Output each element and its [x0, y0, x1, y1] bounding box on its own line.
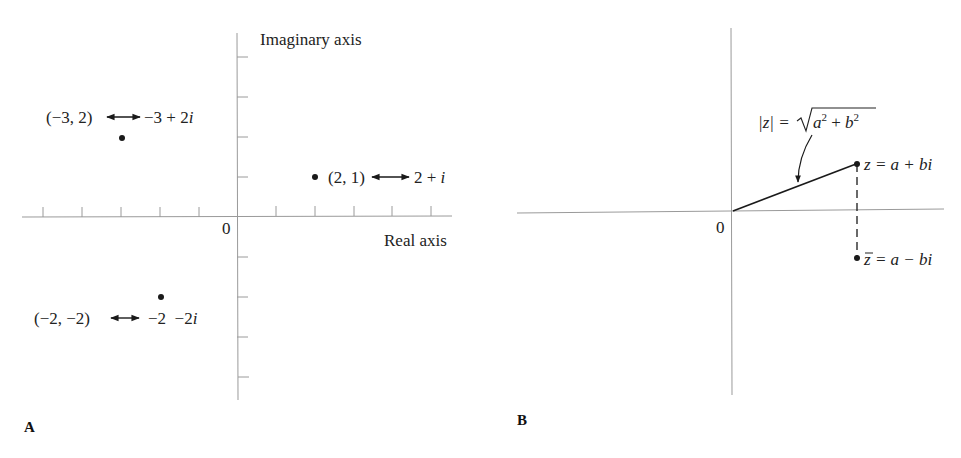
real-axis-b: [517, 209, 944, 213]
imaginary-axis: [237, 33, 238, 400]
point-pair-label: (2, 1): [328, 168, 365, 187]
panel-a: Imaginary axis Real axis 0 (−3, 2) −3 + …: [22, 30, 452, 435]
imaginary-axis-b: [731, 28, 732, 395]
svg-text:|z| =: |z| =: [758, 113, 790, 132]
point-z-conjugate: [854, 255, 860, 261]
point-complex-label: −3 + 2i: [144, 108, 194, 127]
point-pair-label: (−2, −2): [34, 309, 90, 328]
panel-b: 0 z = a + bi z = a − bi |z| = a2 + b2 B: [517, 28, 944, 428]
panel-label-b: B: [517, 412, 527, 428]
point-2-1: (2, 1) 2 + i: [312, 168, 446, 187]
modulus-vector: [733, 164, 856, 211]
imaginary-axis-label: Imaginary axis: [260, 30, 362, 49]
origin-label-b: 0: [716, 218, 725, 237]
point-neg3-2: (−3, 2) −3 + 2i: [46, 108, 194, 141]
complex-plane-figure: Imaginary axis Real axis 0 (−3, 2) −3 + …: [0, 0, 961, 458]
z-label: z = a + bi: [863, 155, 933, 174]
svg-text:a2 + b2: a2 + b2: [813, 111, 859, 132]
point-neg2-neg2: (−2, −2) −2 −2i: [34, 294, 198, 328]
point-complex-label: 2 + i: [414, 168, 446, 187]
point-pair-label: (−3, 2): [46, 108, 92, 127]
modulus-formula: |z| = a2 + b2: [758, 108, 876, 132]
origin-label-a: 0: [222, 219, 231, 238]
point-z: [854, 161, 860, 167]
data-point: [119, 135, 125, 141]
imaginary-axis-ticks: [237, 57, 249, 377]
svg-text:z = a − bi: z = a − bi: [863, 250, 933, 269]
panel-label-a: A: [24, 419, 35, 435]
real-axis-label: Real axis: [384, 231, 447, 250]
data-point: [312, 174, 318, 180]
z-conjugate-label: z = a − bi: [863, 250, 933, 269]
data-point: [158, 294, 164, 300]
point-complex-label: −2 −2i: [148, 309, 198, 328]
curved-arrow-icon: [798, 135, 812, 182]
